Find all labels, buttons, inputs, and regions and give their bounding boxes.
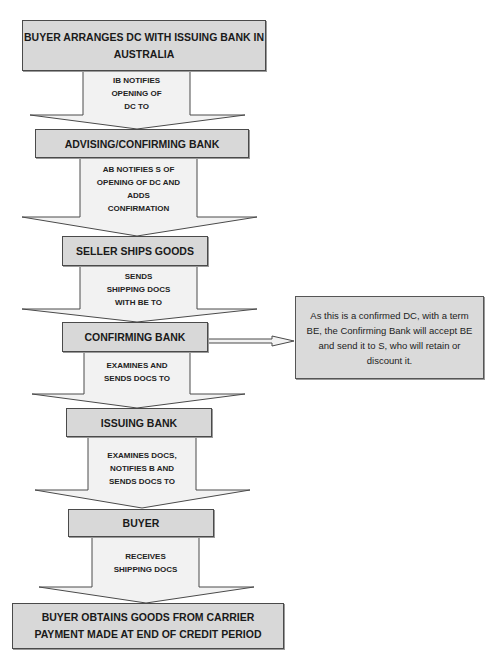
step-buyer-arranges-dc: BUYER ARRANGES DC WITH ISSUING BANK IN A… [22,20,266,71]
callout-confirmed-dc-note: As this is a confirmed DC, with a term B… [295,296,484,379]
arrow-label-2: AB NOTIFIES S OF OPENING OF DC AND ADDS … [80,163,197,215]
step-buyer: BUYER [68,509,214,537]
right-arrow-to-callout [204,336,294,346]
arrow-label-1: IB NOTIFIES OPENING OF DC TO [83,74,190,113]
arrow-label-6: RECEIVES SHIPPING DOCS [92,550,199,576]
step-advising-confirming-bank: ADVISING/CONFIRMING BANK [35,129,249,158]
arrow-label-5: EXAMINES DOCS, NOTIFIES B AND SENDS DOCS… [88,449,196,488]
arrow-label-4: EXAMINES AND SENDS DOCS TO [84,359,190,385]
step-buyer-obtains-goods: BUYER OBTAINS GOODS FROM CARRIER PAYMENT… [12,603,284,649]
arrow-label-3: SENDS SHIPPING DOCS WITH BE TO [80,270,197,309]
step-confirming-bank: CONFIRMING BANK [62,322,208,352]
step-issuing-bank: ISSUING BANK [66,408,212,437]
step-seller-ships-goods: SELLER SHIPS GOODS [62,236,208,266]
